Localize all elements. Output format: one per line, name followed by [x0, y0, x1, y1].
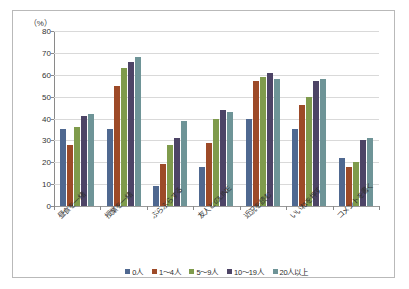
y-tick-label: 10: [29, 180, 51, 189]
y-tick-label: 70: [29, 48, 51, 57]
x-tick-mark: [100, 206, 101, 210]
legend-item[interactable]: 20人以上: [273, 266, 308, 277]
x-tick-mark: [286, 206, 287, 210]
legend-item[interactable]: 5～9人: [189, 266, 218, 277]
plot-area: [54, 31, 379, 206]
bar[interactable]: [199, 167, 205, 206]
chart-frame: （%） 01020304050607080 昼食を一緒授業を一緒ぶらぶらする友人…: [12, 10, 395, 278]
bar-group: [286, 31, 332, 206]
bar[interactable]: [128, 62, 134, 206]
y-tick-label: 20: [29, 158, 51, 167]
legend-item[interactable]: 10～19人: [227, 266, 264, 277]
y-tick-label: 80: [29, 27, 51, 36]
y-tick-label: 40: [29, 114, 51, 123]
bar[interactable]: [274, 79, 280, 206]
legend-label: 5～9人: [196, 266, 218, 277]
legend-label: 20人以上: [280, 266, 308, 277]
bar[interactable]: [253, 81, 259, 206]
legend-item[interactable]: 0人: [125, 266, 143, 277]
chart-legend: 0人1～4人5～9人10～19人20人以上: [25, 266, 408, 277]
legend-label: 1～4人: [159, 266, 181, 277]
bar[interactable]: [107, 129, 113, 206]
legend-swatch-icon: [189, 269, 194, 274]
bar-group: [147, 31, 193, 206]
bar-group: [240, 31, 286, 206]
x-tick-mark: [193, 206, 194, 210]
bar[interactable]: [339, 158, 345, 206]
x-axis-category-labels: 昼食を一緒授業を一緒ぶらぶらする友人とのLINE近況を読むいいねを押すコメントを…: [54, 211, 379, 266]
bar[interactable]: [60, 129, 66, 206]
y-tick-label: 60: [29, 70, 51, 79]
legend-label: 0人: [132, 266, 143, 277]
bar[interactable]: [135, 57, 141, 206]
legend-label: 10～19人: [234, 266, 264, 277]
bar[interactable]: [267, 73, 273, 206]
legend-swatch-icon: [227, 269, 232, 274]
y-tick-label: 50: [29, 92, 51, 101]
y-tick-label: 0: [29, 202, 51, 211]
y-tick-label: 30: [29, 136, 51, 145]
legend-swatch-icon: [125, 269, 130, 274]
x-tick-mark: [333, 206, 334, 210]
bar[interactable]: [121, 68, 127, 206]
x-tick-mark: [147, 206, 148, 210]
legend-swatch-icon: [273, 269, 278, 274]
legend-swatch-icon: [152, 269, 157, 274]
bar[interactable]: [260, 77, 266, 206]
x-tick-mark: [54, 206, 55, 210]
bar[interactable]: [320, 79, 326, 206]
bar[interactable]: [299, 105, 305, 206]
bar[interactable]: [292, 129, 298, 206]
bar-group: [193, 31, 239, 206]
bar[interactable]: [367, 138, 373, 206]
y-axis-tick-labels: 01020304050607080: [25, 31, 51, 206]
bar-group: [100, 31, 146, 206]
bar[interactable]: [88, 114, 94, 206]
bar-group: [333, 31, 379, 206]
bar[interactable]: [114, 86, 120, 206]
legend-item[interactable]: 1～4人: [152, 266, 181, 277]
bar[interactable]: [246, 119, 252, 207]
x-tick-mark: [379, 206, 380, 210]
bar-group: [54, 31, 100, 206]
x-tick-mark: [240, 206, 241, 210]
